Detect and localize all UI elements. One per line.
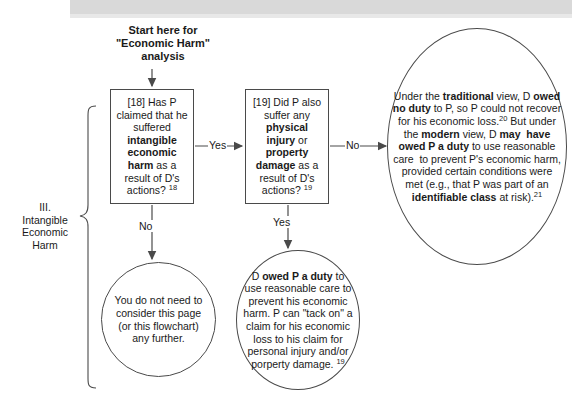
edge-label-box19-yes: Yes	[272, 216, 291, 228]
section-numeral: III.	[6, 201, 84, 214]
outcome-no-need-text: You do not need to consider this page (o…	[109, 294, 209, 344]
decision-box-18-text: [18] Has P claimed that he suffered inta…	[116, 96, 187, 196]
edge-label-box19-no: No	[345, 139, 360, 151]
section-line2: Economic	[6, 226, 84, 239]
section-line3: Harm	[6, 239, 84, 252]
decision-box-18[interactable]: [18] Has P claimed that he suffered inta…	[110, 89, 194, 204]
decision-box-19-text: [19] Did P also suffer any physical inju…	[253, 96, 321, 196]
flowchart-page: Start here for "Economic Harm" analysis …	[0, 0, 572, 417]
outcome-tack-on-text: D owed P a duty to use reasonable care t…	[242, 270, 354, 371]
section-line1: Intangible	[6, 214, 84, 227]
start-label-line2: "Economic Harm"	[88, 37, 238, 50]
start-label-line3: analysis	[88, 50, 238, 63]
edge-label-box18-no: No	[138, 220, 153, 232]
outcome-tack-on-claim[interactable]: D owed P a duty to use reasonable care t…	[236, 250, 360, 390]
edge-label-box18-yes: Yes	[208, 139, 227, 151]
start-label: Start here for "Economic Harm" analysis	[88, 24, 238, 63]
decision-box-19[interactable]: [19] Did P also suffer any physical inju…	[245, 89, 329, 204]
section-label: III. Intangible Economic Harm	[6, 201, 84, 251]
outcome-no-need-to-consider[interactable]: You do not need to consider this page (o…	[101, 262, 216, 377]
outcome-views-text: Under the traditional view, D owed no du…	[392, 90, 562, 203]
start-label-line1: Start here for	[88, 24, 238, 37]
outcome-traditional-modern-views[interactable]: Under the traditional view, D owed no du…	[387, 28, 567, 265]
